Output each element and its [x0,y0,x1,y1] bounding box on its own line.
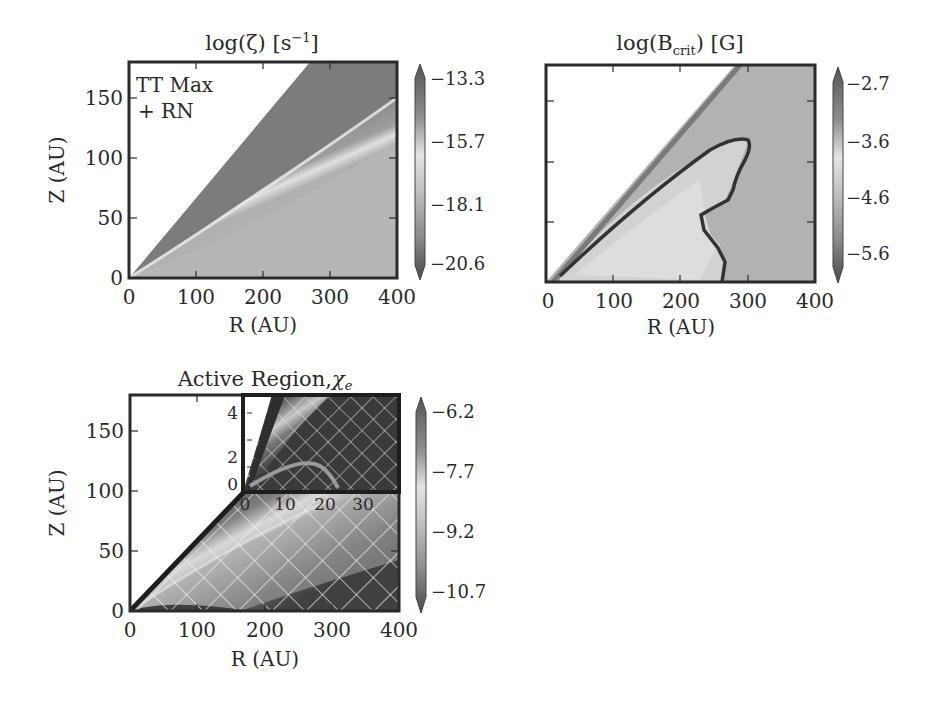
svg-text:200: 200 [662,289,700,313]
svg-text:0: 0 [110,266,123,290]
svg-text:300: 300 [313,618,351,642]
svg-text:200: 200 [244,285,282,309]
svg-text:100: 100 [86,479,124,503]
panel2-title: log(Bcrit) [G] [616,31,743,58]
panel1-yticklabels: 0 50 100 150 [85,86,123,290]
inset-yticklabels: 0 2 4 [227,403,238,494]
svg-text:0: 0 [542,289,555,313]
svg-text:−5.6: −5.6 [846,243,890,264]
panel2-xlabel: R (AU) [647,315,715,339]
svg-text:100: 100 [178,618,216,642]
svg-text:400: 400 [796,289,834,313]
svg-text:300: 300 [729,289,767,313]
panel1-xticklabels: 0 100 200 300 400 [123,285,416,309]
svg-text:−10.7: −10.7 [431,581,486,602]
svg-text:50: 50 [99,539,124,563]
svg-text:−6.2: −6.2 [431,401,475,422]
panel-active-region: Active Region,χe [45,367,486,671]
panel1-annotation-line1: TT Max [136,73,214,97]
svg-text:0: 0 [124,618,137,642]
svg-text:150: 150 [86,419,124,443]
svg-text:2: 2 [227,447,238,467]
panel1-colorbar: −13.3 −15.7 −18.1 −20.6 [415,64,485,280]
panel3-xticklabels: 0 100 200 300 400 [124,618,418,642]
panel1-colorbar-labels: −13.3 −15.7 −18.1 −20.6 [430,68,485,274]
svg-text:10: 10 [274,494,296,514]
panel1-ylabel: Z (AU) [45,136,69,203]
svg-text:−13.3: −13.3 [430,68,485,89]
panel-critical-field: log(Bcrit) [G] 0 100 200 300 400 R (AU) [542,31,890,339]
panel2-xticklabels: 0 100 200 300 400 [542,289,834,313]
panel2-heatmap [546,65,815,282]
panel1-xlabel: R (AU) [229,313,297,337]
panel1-title: log(ζ) [s−1] [205,30,319,55]
panel3-ylabel: Z (AU) [45,469,69,536]
panel3-xlabel: R (AU) [231,647,299,671]
svg-text:100: 100 [595,289,633,313]
svg-text:150: 150 [85,86,123,110]
svg-text:0: 0 [227,474,238,494]
svg-text:−2.7: −2.7 [846,73,890,94]
svg-text:0: 0 [240,494,251,514]
panel3-yticklabels: 0 50 100 150 [86,419,124,623]
svg-text:4: 4 [227,403,238,423]
panel-ionization-rate: log(ζ) [s−1] TT Max + RN 0 100 200 300 4… [45,30,485,337]
svg-text:−9.2: −9.2 [431,521,475,542]
svg-text:100: 100 [85,146,123,170]
svg-text:100: 100 [177,285,215,309]
svg-text:300: 300 [311,285,349,309]
svg-text:−7.7: −7.7 [431,461,475,482]
svg-text:20: 20 [314,494,336,514]
svg-text:0: 0 [123,285,136,309]
svg-text:−4.6: −4.6 [846,187,890,208]
panel1-annotation-line2: + RN [138,99,194,123]
svg-text:50: 50 [98,206,123,230]
svg-text:400: 400 [380,618,418,642]
svg-text:200: 200 [246,618,284,642]
panel3-colorbar: −6.2 −7.7 −9.2 −10.7 [416,397,486,613]
panel2-colorbar: −2.7 −3.6 −4.6 −5.6 [833,67,890,283]
svg-text:−20.6: −20.6 [430,253,485,274]
svg-text:30: 30 [352,494,374,514]
svg-text:0: 0 [111,599,124,623]
svg-text:400: 400 [378,285,416,309]
figure: log(ζ) [s−1] TT Max + RN 0 100 200 300 4… [0,0,934,709]
svg-text:−18.1: −18.1 [430,194,485,215]
panel3-title: Active Region,χe [177,367,353,393]
svg-text:−15.7: −15.7 [430,131,485,152]
svg-text:−3.6: −3.6 [846,131,890,152]
